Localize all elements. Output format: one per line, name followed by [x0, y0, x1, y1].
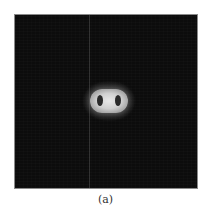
blob-left-hole [97, 95, 103, 106]
figure-caption: (a) [0, 193, 211, 206]
image-panel [14, 14, 198, 189]
bright-blob [90, 89, 128, 113]
blob-right-hole [115, 95, 121, 106]
